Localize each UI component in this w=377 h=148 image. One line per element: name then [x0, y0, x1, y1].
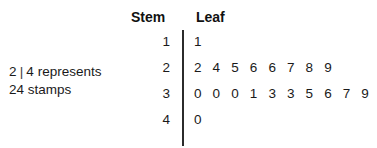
leaf-digit: 2	[194, 60, 213, 75]
stem-value: 4	[140, 112, 170, 127]
leaf-digit: 4	[213, 60, 232, 75]
leaf-digit: 7	[343, 86, 362, 101]
leaf-digit: 1	[250, 86, 269, 101]
leaf-digit: 0	[194, 112, 213, 127]
leaf-digit: 5	[231, 60, 250, 75]
leaf-digit: 6	[324, 86, 343, 101]
leaf-values: 1	[194, 34, 213, 49]
leaf-values: 24566789	[194, 60, 343, 75]
leaf-digit: 0	[213, 86, 232, 101]
leaf-values: 0001335679	[194, 86, 377, 101]
leaf-values: 0	[194, 112, 213, 127]
leaf-digit: 0	[194, 86, 213, 101]
leaf-digit: 9	[324, 60, 343, 75]
plot-row: 224566789	[0, 60, 377, 86]
plot-rows: 112245667893000133567940	[0, 0, 377, 148]
leaf-digit: 6	[268, 60, 287, 75]
stem-value: 2	[140, 60, 170, 75]
plot-row: 11	[0, 34, 377, 60]
plot-row: 30001335679	[0, 86, 377, 112]
plot-row: 40	[0, 112, 377, 138]
stem-value: 3	[140, 86, 170, 101]
leaf-digit: 3	[268, 86, 287, 101]
leaf-digit: 9	[361, 86, 377, 101]
leaf-digit: 0	[231, 86, 250, 101]
leaf-digit: 3	[287, 86, 306, 101]
leaf-digit: 6	[250, 60, 269, 75]
leaf-digit: 7	[287, 60, 306, 75]
stem-value: 1	[140, 34, 170, 49]
leaf-digit: 5	[306, 86, 325, 101]
stem-and-leaf-plot: 2|4 represents 24 stamps Stem Leaf 11224…	[0, 0, 377, 148]
leaf-digit: 8	[306, 60, 325, 75]
leaf-digit: 1	[194, 34, 213, 49]
